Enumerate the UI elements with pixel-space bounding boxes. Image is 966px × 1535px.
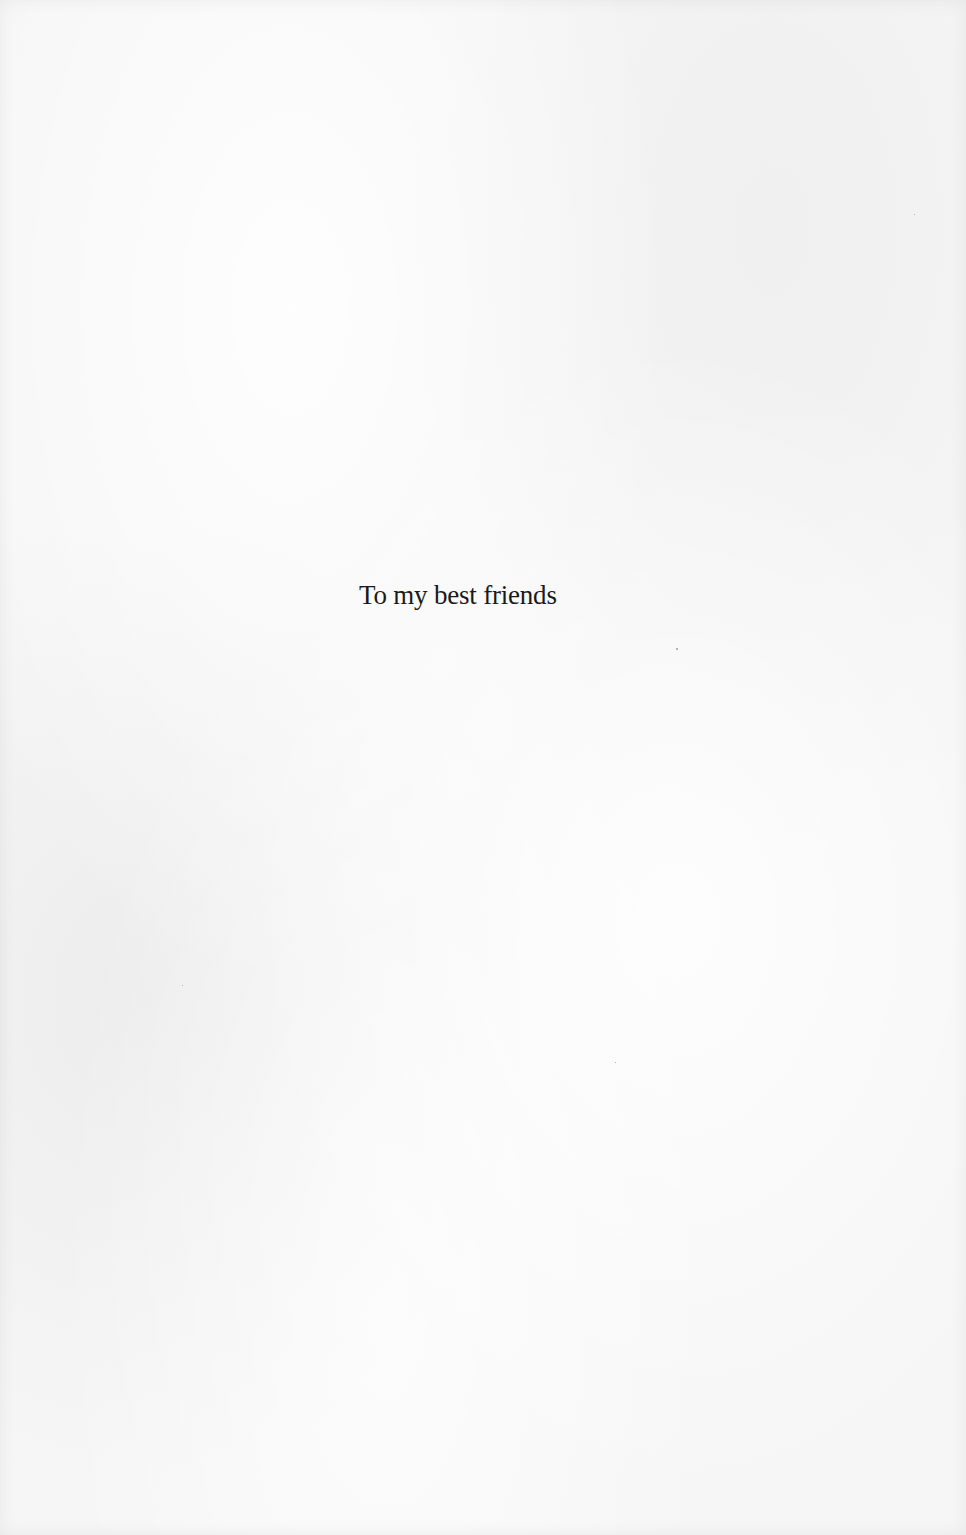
paper-speck xyxy=(914,214,915,215)
dedication-text: To my best friends xyxy=(359,578,557,612)
paper-speck xyxy=(615,1062,616,1063)
book-page: To my best friends xyxy=(0,0,966,1535)
paper-speck xyxy=(676,648,678,650)
paper-speck xyxy=(182,985,183,986)
